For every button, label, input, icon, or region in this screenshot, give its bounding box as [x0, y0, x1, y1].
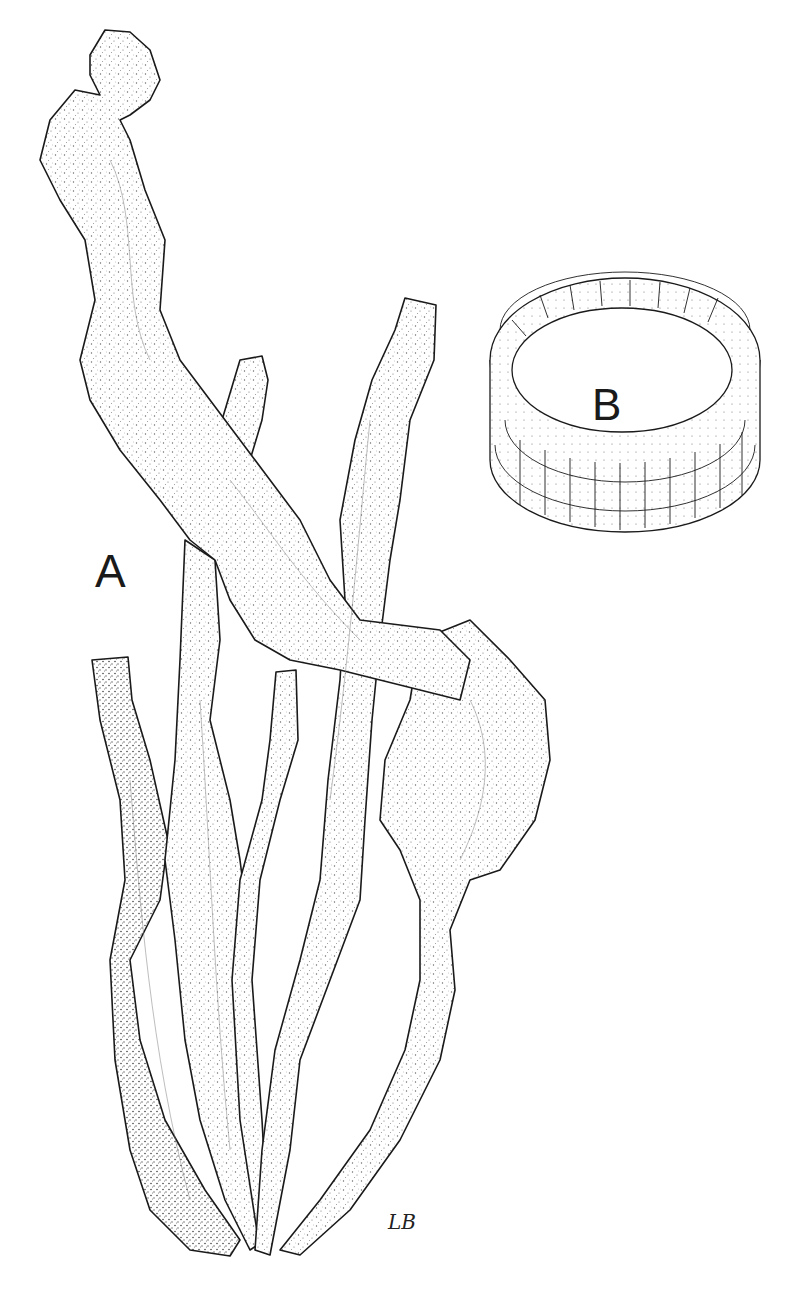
- panel-label-b: B: [592, 383, 621, 427]
- panel-b-ring: [490, 272, 760, 532]
- artist-signature: LB: [388, 1210, 416, 1234]
- illustration-canvas: A B LB: [0, 0, 793, 1294]
- seaweed-drawing: [0, 0, 793, 1294]
- panel-label-a: A: [95, 548, 126, 594]
- panel-a-fronds: [40, 30, 550, 1256]
